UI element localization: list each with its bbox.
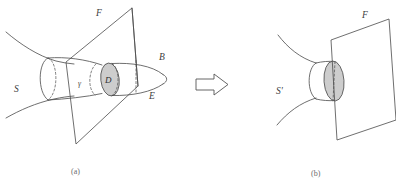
gamma-intersection-curve [90,64,96,95]
plane-f-right-edge [132,8,138,86]
panel-a: S F B E D γ (a) [6,8,167,176]
label-edge-e: E [148,91,155,101]
surface-sprime-upper-curve [278,35,316,63]
panel-b: S' F (b) [276,10,396,178]
surface-s-lower-curve [6,96,74,118]
panel-label-b: (b) [311,169,321,178]
figure-svg: S F B E D γ (a) [0,0,396,196]
label-surface-sprime: S' [276,86,284,96]
label-curve-gamma: γ [78,79,82,88]
cone-tip-arc [163,75,167,85]
panel-label-a: (a) [71,167,80,176]
tube-left-rim-back [48,58,56,100]
tube-left-rim-front [40,58,48,100]
cone-upper-edge [112,63,163,74]
tube-bottom-generator [48,94,102,101]
cone-lower-edge [112,84,163,96]
surface-s-upper-curve [6,32,74,64]
surface-sprime-lower-curve [277,98,316,125]
label-disk-d: D [104,75,112,85]
implies-arrow [196,74,228,95]
label-boundary-b: B [159,52,165,62]
label-surface-s: S [14,84,19,94]
figure-root: S F B E D γ (a) [0,0,396,196]
neck-left-rim-front [309,63,316,99]
label-plane-f: F [95,8,102,18]
label-plane-f-b: F [361,10,368,20]
